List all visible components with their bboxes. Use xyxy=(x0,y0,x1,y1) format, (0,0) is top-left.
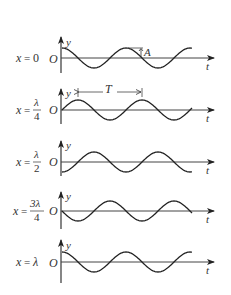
panel-label-denominator: 2 xyxy=(34,162,40,174)
panel-label-eq: = xyxy=(21,205,27,217)
wave-diagram: x = 0 O y t A x = λ 4 O y t T x = xyxy=(0,0,231,295)
panel-x-lambda: x = λ O y t xyxy=(15,239,214,283)
t-axis-label: t xyxy=(206,164,210,176)
origin-label: O xyxy=(49,256,58,270)
panel-label-eq: = xyxy=(24,256,30,268)
y-axis-label: y xyxy=(65,87,71,99)
panel-x-lambda-half: x = λ 2 O y t xyxy=(15,139,214,176)
panel-x-0: x = 0 O y t A xyxy=(15,36,214,73)
panel-label-eq: = xyxy=(24,52,30,64)
t-axis-label: t xyxy=(206,112,210,124)
panel-label-lhs: x xyxy=(15,103,22,117)
panel-label-lhs: x xyxy=(15,155,22,169)
panel-label-lhs: x xyxy=(15,51,22,65)
y-axis-label: y xyxy=(65,239,71,251)
origin-label: O xyxy=(49,204,58,218)
panel-label-denominator: 4 xyxy=(34,110,40,122)
panel-x-three-lambda-quarter: x = 3λ 4 O y t xyxy=(12,190,214,229)
panel-label-numerator: λ xyxy=(33,96,39,108)
panel-label-eq: = xyxy=(24,104,30,116)
amplitude-label: A xyxy=(143,46,151,58)
panel-label-eq: = xyxy=(24,156,30,168)
t-axis-label: t xyxy=(206,213,210,225)
origin-label: O xyxy=(49,155,58,169)
panel-label-denominator: 4 xyxy=(34,211,40,223)
origin-label: O xyxy=(49,103,58,117)
panel-label-lhs: x xyxy=(12,204,19,218)
origin-label: O xyxy=(49,52,58,66)
t-axis-label: t xyxy=(206,264,210,276)
y-axis-label: y xyxy=(65,190,71,202)
y-axis-label: y xyxy=(65,139,71,151)
panel-label-value: 0 xyxy=(33,51,39,65)
panel-x-lambda-quarter: x = λ 4 O y t T xyxy=(15,82,214,124)
panel-label-value: λ xyxy=(32,255,38,269)
t-axis-label: t xyxy=(206,60,210,72)
panel-label-lhs: x xyxy=(15,255,22,269)
panel-label-numerator: 3λ xyxy=(29,197,41,209)
panel-label-numerator: λ xyxy=(33,148,39,160)
y-axis-label: y xyxy=(65,36,71,48)
